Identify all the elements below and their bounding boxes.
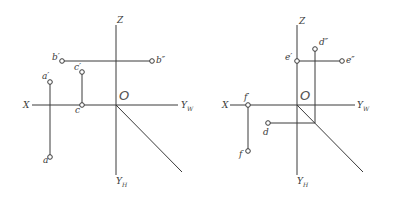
label-b-prime: b′: [52, 52, 60, 62]
label-e-dprime: e″: [346, 55, 355, 65]
x-label-right: X: [221, 100, 229, 110]
label-d-dprime: d″: [319, 37, 329, 47]
point-b-prime: [60, 59, 65, 64]
x-label-left: X: [22, 100, 30, 110]
label-d: d: [263, 127, 269, 137]
label-b-dprime: b″: [156, 55, 166, 65]
point-c: [80, 103, 85, 108]
label-a-prime: a′: [42, 71, 49, 81]
yh-label-left: YH: [116, 176, 128, 188]
point-f: [246, 149, 251, 154]
z-label-left: Z: [116, 15, 124, 25]
point-b-dprime: [150, 59, 155, 64]
label-f-prime: f′: [243, 92, 249, 102]
projection-diagrams: Z X O YW YH b′ b″ a′ a c′ c Z X O YW YH …: [0, 0, 393, 210]
yh-label-right: YH: [297, 176, 309, 188]
diagonal-45-right: [297, 105, 363, 172]
yw-label-right: YW: [357, 100, 370, 112]
point-a: [48, 155, 53, 160]
label-a: a: [43, 155, 48, 165]
right-diagram: Z X O YW YH e′ e″ d″ d f′ f: [221, 16, 370, 188]
label-c: c: [75, 105, 80, 115]
diagonal-45-left: [116, 105, 182, 172]
label-f: f: [238, 149, 244, 159]
origin-label-left: O: [119, 88, 129, 103]
origin-label-right: O: [300, 88, 310, 103]
left-diagram: Z X O YW YH b′ b″ a′ a c′ c: [22, 15, 194, 188]
point-d: [266, 121, 271, 126]
z-label-right: Z: [298, 16, 306, 26]
label-c-prime: c′: [74, 62, 81, 72]
point-d-dprime: [313, 47, 318, 52]
point-e-dprime: [340, 59, 345, 64]
label-e-prime: e′: [285, 52, 292, 62]
point-f-prime: [246, 103, 251, 108]
point-e-prime: [295, 59, 300, 64]
yw-label-left: YW: [181, 100, 194, 112]
